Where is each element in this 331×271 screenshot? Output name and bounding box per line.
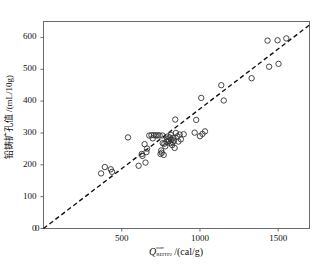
y-axis-title-text: 铅铸扩孔值 /(mL/10g) <box>4 75 14 159</box>
plot-area <box>0 0 331 271</box>
x-axis-subscript: REITP2 <box>156 252 172 257</box>
x-axis-title: QcorrREITP2/(cal/g) <box>40 246 312 257</box>
y-tick-label: 200 <box>11 159 37 169</box>
y-tick-label: 300 <box>11 127 37 137</box>
y-tick-label: 500 <box>11 63 37 73</box>
scatter-chart-figure: 铅铸扩孔值 /(mL/10g) QcorrREITP2/(cal/g) 0100… <box>0 0 331 271</box>
x-axis-symbol: QcorrREITP2 <box>149 246 156 257</box>
x-tick-label: 0 <box>22 223 40 233</box>
y-tick-label: 100 <box>11 191 37 201</box>
axes-frame <box>44 22 310 229</box>
x-tick-label: 1000 <box>185 233 215 243</box>
plot-frame-rect <box>44 22 310 229</box>
x-axis-symbol-letter: Q <box>149 246 156 257</box>
x-tick-label: 500 <box>107 233 137 243</box>
x-axis-superscript: corr <box>156 245 164 250</box>
x-tick-label: 1500 <box>263 233 293 243</box>
x-axis-unit: /(cal/g) <box>174 246 203 257</box>
y-tick-label: 400 <box>11 95 37 105</box>
y-tick-label: 600 <box>11 31 37 41</box>
y-axis-title: 铅铸扩孔值 /(mL/10g) <box>0 108 74 126</box>
